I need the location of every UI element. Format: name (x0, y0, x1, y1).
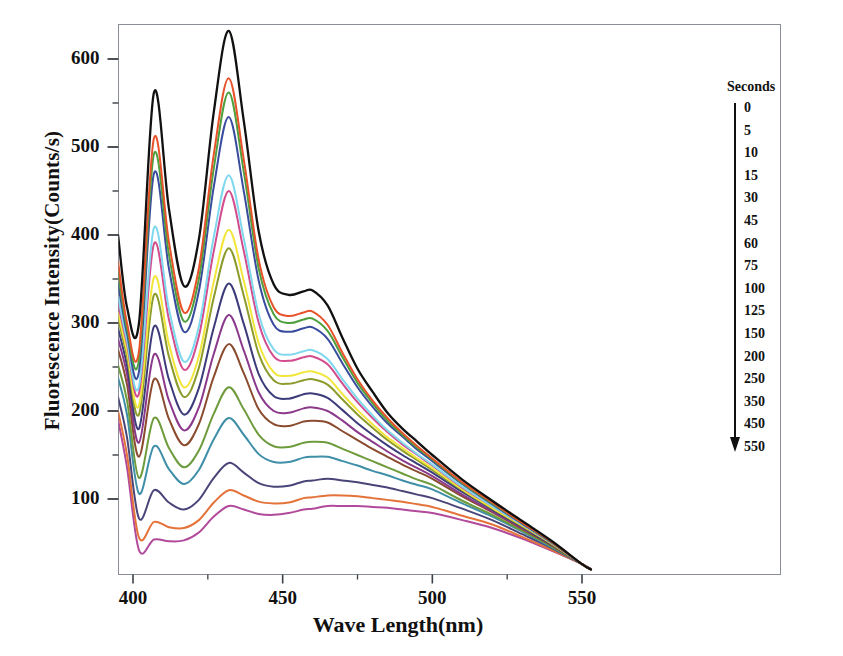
x-tick-label: 500 (392, 587, 472, 609)
legend-item: 10 (744, 145, 758, 161)
plot-canvas (0, 0, 843, 656)
legend-item: 30 (744, 190, 758, 206)
plot-frame (119, 25, 781, 575)
legend-item: 5 (744, 123, 751, 139)
legend-item: 450 (744, 416, 765, 432)
legend-item: 150 (744, 326, 765, 342)
y-tick-label: 600 (30, 47, 100, 69)
legend-item: 0 (744, 100, 751, 116)
y-tick-label: 500 (30, 135, 100, 157)
legend-item: 350 (744, 394, 765, 410)
x-axis-title: Wave Length(nm) (118, 612, 678, 638)
y-tick-label: 200 (30, 399, 100, 421)
legend-item: 250 (744, 371, 765, 387)
legend-item: 550 (744, 439, 765, 455)
legend-item: 15 (744, 168, 758, 184)
x-tick-label: 400 (93, 587, 173, 609)
y-tick-label: 100 (30, 487, 100, 509)
x-tick-label: 550 (542, 587, 622, 609)
legend-item: 125 (744, 303, 765, 319)
y-tick-label: 300 (30, 311, 100, 333)
legend-item: 60 (744, 236, 758, 252)
y-tick-label: 400 (30, 223, 100, 245)
legend-item: 200 (744, 349, 765, 365)
legend-item: 75 (744, 258, 758, 274)
legend-item: 100 (744, 281, 765, 297)
fluorescence-spectra-figure: Fluorescence Intensity(Counts/s) Wave Le… (0, 0, 843, 656)
x-tick-label: 450 (243, 587, 323, 609)
legend-title: Seconds (727, 79, 775, 95)
legend-item: 45 (744, 213, 758, 229)
